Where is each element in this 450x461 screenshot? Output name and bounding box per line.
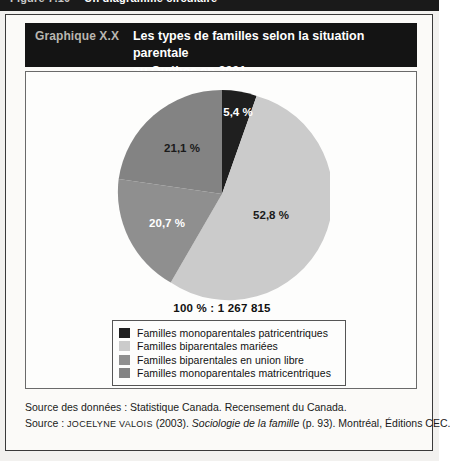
chart-number-label: Graphique X.X <box>35 28 119 43</box>
chart-panel: 5,4 % 52,8 % 20,7 % 21,1 % 100 % : 1 267… <box>25 71 417 389</box>
source-data-line: Source des données : Statistique Canada.… <box>25 399 421 415</box>
legend-label-3: Familles monoparentales matricentriques <box>137 367 331 379</box>
figure-caption-bar: Figure 7.10Un diagramme circulaire <box>0 0 439 11</box>
chart-title-line1: Les types de familles selon la situation… <box>133 28 409 63</box>
legend-item: Familles monoparentales matricentriques <box>119 367 338 381</box>
chart-legend: Familles monoparentales patricentriques … <box>112 320 346 386</box>
legend-item: Familles biparentales mariées <box>119 340 338 354</box>
legend-swatch-0 <box>119 328 130 338</box>
legend-item: Familles monoparentales patricentriques <box>119 326 338 340</box>
legend-label-0: Familles monoparentales patricentriques <box>137 327 328 339</box>
pie-label-1: 52,8 % <box>253 209 289 221</box>
source-work-title: Sociologie de la famille <box>192 417 299 429</box>
figure-caption-text: Figure 7.10Un diagramme circulaire <box>10 0 217 4</box>
source-year: (2003). <box>153 417 192 429</box>
legend-label-2: Familles biparentales en union libre <box>137 354 304 366</box>
pie-svg: 5,4 % 52,8 % 20,7 % 21,1 % <box>114 86 330 302</box>
pie-label-3: 21,1 % <box>164 142 200 154</box>
figure-caption-number: Figure 7.10 <box>10 0 70 4</box>
source-notes: Source des données : Statistique Canada.… <box>25 399 421 432</box>
figure-card: Graphique X.X Les types de familles selo… <box>5 14 433 451</box>
source-author: JOCELYNE VALOIS <box>67 419 153 429</box>
figure-caption-title: Un diagramme circulaire <box>84 0 217 4</box>
source-prefix: Source : <box>25 417 67 429</box>
legend-swatch-3 <box>119 368 130 378</box>
legend-label-1: Familles biparentales mariées <box>137 340 278 352</box>
legend-swatch-2 <box>119 355 130 365</box>
legend-item: Familles biparentales en union libre <box>119 353 338 367</box>
total-label: 100 % : 1 267 815 <box>26 302 418 314</box>
chart-title-band: Graphique X.X Les types de familles selo… <box>25 23 417 67</box>
pie-chart: 5,4 % 52,8 % 20,7 % 21,1 % <box>26 86 418 302</box>
pie-label-2: 20,7 % <box>149 217 185 229</box>
pie-label-0: 5,4 % <box>223 106 252 118</box>
legend-swatch-1 <box>119 341 130 351</box>
source-reference-line: Source : JOCELYNE VALOIS (2003). Sociolo… <box>25 415 421 432</box>
source-suffix: (p. 93). Montréal, Éditions CEC. <box>299 417 450 429</box>
